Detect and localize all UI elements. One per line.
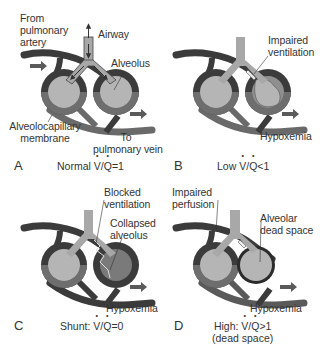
flow-out-arrow-a [130, 109, 147, 119]
panel-letter-b: B [174, 158, 183, 173]
label-collapsed-alveolus: Collapsed alveolus [110, 217, 156, 241]
label-alveolocapillary-membrane: Alveolocapillary membrane [5, 120, 85, 144]
label-airway: Airway [98, 28, 129, 40]
label-to-pulmonary-vein: To pulmonary vein [93, 131, 159, 155]
panel-letter-a: A [14, 158, 23, 173]
label-blocked-ventilation: Blocked ventilation [104, 186, 150, 210]
label-hypoxemia-b: Hypoxemia [260, 130, 312, 142]
label-alveolus: Alveolus [111, 57, 150, 69]
label-hypoxemia-c: Hypoxemia [106, 302, 158, 314]
caption-b: Low V/Q<1 [217, 160, 269, 172]
caption-a: Normal V/Q=1 [57, 160, 124, 172]
label-hypoxemia-d: Hypoxemia [250, 302, 302, 314]
label-impaired-perfusion: Impaired perfusion [172, 186, 214, 210]
flow-in-arrow-a [30, 61, 47, 71]
panel-letter-d: D [174, 318, 183, 333]
panel-c [24, 200, 152, 305]
caption-d: High: V/Q>1 (dead space) [212, 320, 273, 344]
label-alveolar-dead-space: Alveolar dead space [260, 212, 313, 236]
caption-c: Shunt: V/Q=0 [60, 320, 123, 332]
label-from-pulmonary-artery: From pulmonary artery [20, 12, 68, 48]
label-impaired-ventilation: Impaired ventilation [268, 34, 314, 58]
panel-letter-c: C [14, 318, 23, 333]
